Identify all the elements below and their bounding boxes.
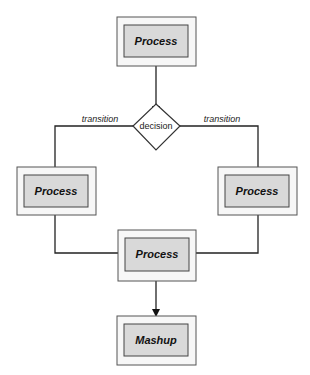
flow-diagram: Process decision transition transition P… [0,0,310,375]
edge-decision-to-left [55,126,133,167]
node-process-left[interactable]: Process [17,167,96,215]
node-label: Process [136,248,179,260]
node-label: Process [135,35,178,47]
node-label: Process [236,185,279,197]
transition-label-left: transition [82,114,119,124]
edge-left-to-merge [55,215,118,253]
node-label: Process [35,185,78,197]
node-mashup[interactable]: Mashup [117,316,196,365]
node-process-right[interactable]: Process [218,167,297,215]
edge-decision-to-right [180,126,258,167]
decision-label: decision [139,121,172,131]
node-label: Mashup [135,334,177,346]
node-process-top[interactable]: Process [117,17,196,66]
node-process-merge[interactable]: Process [118,230,196,281]
transition-label-right: transition [204,114,241,124]
node-decision[interactable]: decision [133,104,180,150]
edge-right-to-merge [196,215,258,253]
